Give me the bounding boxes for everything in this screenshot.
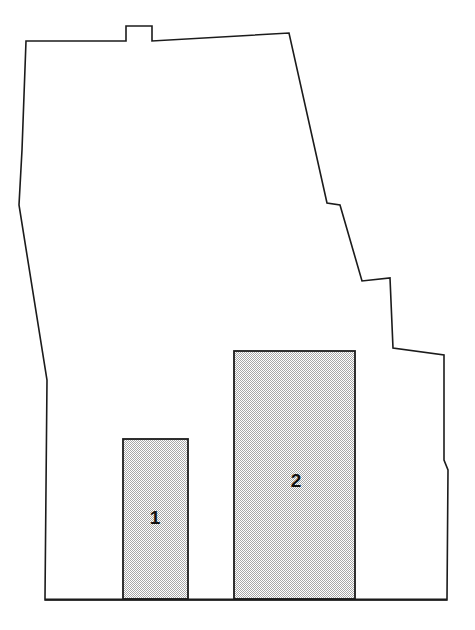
building-block-1[interactable]: 1 xyxy=(123,439,188,599)
building-block-2-label: 2 xyxy=(291,470,302,491)
site-plan-canvas: 1 2 xyxy=(0,0,475,630)
building-block-1-label: 1 xyxy=(150,507,161,528)
building-block-2[interactable]: 2 xyxy=(234,351,355,599)
site-plan-figure: 1 2 xyxy=(0,0,475,630)
